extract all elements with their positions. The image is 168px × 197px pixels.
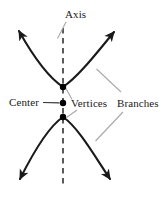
axis-leader-line <box>58 22 67 39</box>
upper-vertex-point <box>60 84 66 90</box>
branches-label: Branches <box>117 97 159 109</box>
vertices-lower-leader-line <box>67 110 78 118</box>
hyperbola-diagram: Axis Center Vertices Branches <box>0 0 168 197</box>
vertices-label: Vertices <box>71 97 107 109</box>
branches-upper-leader-line <box>97 69 122 92</box>
upper-branch-curve <box>19 31 114 87</box>
lower-branch-curve <box>20 117 110 179</box>
axis-label: Axis <box>65 8 86 20</box>
branches-lower-leader-line <box>96 112 124 141</box>
center-label: Center <box>9 96 39 108</box>
center-point <box>60 100 66 106</box>
lower-vertex-point <box>60 114 66 120</box>
